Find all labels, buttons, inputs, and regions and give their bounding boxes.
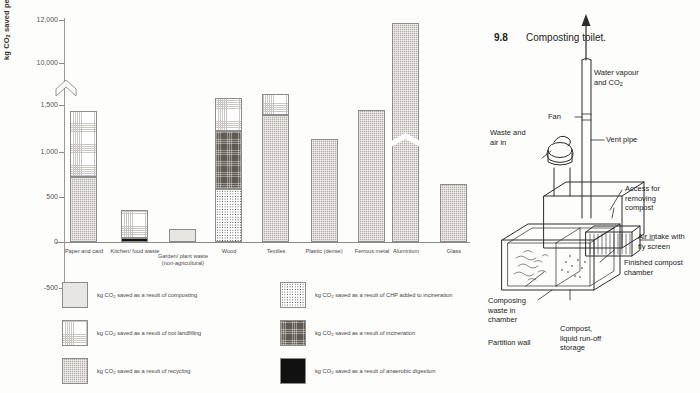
legend-label-composting: kg CO2 saved as a result of composting — [97, 292, 197, 299]
segment-chp-incineration — [215, 189, 242, 242]
segment-not-landfilling — [262, 94, 289, 115]
segment-not-landfilling — [121, 210, 148, 238]
legend-item-chp-incineration[interactable]: kg CO2 saved as a result of CHP added to… — [280, 282, 452, 308]
legend-label-not-landfilling: kg CO2 saved as a result of not landfill… — [97, 330, 201, 337]
x-label-garden-plant-waste: Garden/ plant waste (non-agricultural) — [157, 253, 209, 267]
label-waste-and-air-in: Waste and air in — [490, 128, 526, 147]
segment-recycling — [70, 177, 97, 242]
label-finished-compost-chamber: Finished compost chamber — [624, 258, 683, 277]
bar-break-icon — [391, 132, 420, 148]
composting-toilet-diagram: 9.8 Composting toilet. — [482, 0, 700, 393]
legend-item-not-landfilling[interactable]: kg CO2 saved as a result of not landfill… — [62, 320, 201, 346]
legend-item-anaerobic-digestion[interactable]: kg CO2 saved as a result of anaerobic di… — [280, 358, 435, 384]
legend-swatch-composting — [62, 282, 88, 308]
segment-incineration — [215, 131, 242, 189]
segment-recycling — [311, 139, 338, 242]
chart-legend: kg CO2 saved as a result of composting k… — [62, 282, 482, 390]
label-compost-liquid-runoff-storage: Compost, liquid run-off storage — [560, 324, 601, 353]
x-label-paper-and-card: Paper and card — [58, 248, 110, 255]
legend-swatch-incineration — [280, 320, 306, 346]
x-label-aluminium: Aluminium — [381, 248, 431, 255]
label-air-intake-with-fly-screen: Air intake with fly screen — [638, 232, 685, 251]
segment-anaerobic-digestion — [121, 238, 148, 242]
legend-swatch-chp-incineration — [280, 282, 306, 308]
label-water-vapour: Water vapour and CO2 — [594, 68, 639, 89]
segment-composting — [169, 229, 196, 242]
label-composting-waste-in-chamber: Composing waste in chamber — [488, 296, 526, 325]
segment-not-landfilling — [70, 111, 97, 177]
label-partition-wall: Partition wall — [488, 338, 531, 348]
bar-chart: kg CO2 saved per tonne waste treated 12,… — [0, 0, 482, 393]
x-label-textiles: Textiles — [252, 248, 300, 255]
figure-page: kg CO2 saved per tonne waste treated 12,… — [0, 0, 700, 393]
label-fan: Fan — [548, 112, 561, 122]
legend-label-anaerobic-digestion: kg CO2 saved as a result of anaerobic di… — [315, 368, 435, 375]
legend-swatch-recycling — [62, 358, 88, 384]
label-vent-pipe: Vent pipe — [606, 135, 637, 145]
segment-recycling — [440, 184, 467, 242]
legend-swatch-not-landfilling — [62, 320, 88, 346]
x-label-plastic-dense: Plastic (dense) — [299, 248, 349, 255]
legend-label-chp-incineration: kg CO2 saved as a result of CHP added to… — [315, 292, 452, 299]
legend-item-composting[interactable]: kg CO2 saved as a result of composting — [62, 282, 197, 308]
x-label-glass: Glass — [430, 248, 478, 255]
legend-label-incineration: kg CO2 saved as a result of incineration — [315, 330, 415, 337]
segment-recycling — [358, 110, 385, 242]
label-access-for-removing-compost: Access for removing compost — [625, 184, 660, 213]
segment-recycling — [262, 115, 289, 242]
x-label-wood: Wood — [205, 248, 253, 255]
legend-item-incineration[interactable]: kg CO2 saved as a result of incineration — [280, 320, 415, 346]
segment-not-landfilling — [215, 98, 242, 131]
legend-item-recycling[interactable]: kg CO2 saved as a result of recycling — [62, 358, 191, 384]
legend-swatch-anaerobic-digestion — [280, 358, 306, 384]
legend-label-recycling: kg CO2 saved as a result of recycling — [97, 368, 191, 375]
x-label-kitchen-food-waste: Kitchen/ food waste — [110, 248, 160, 255]
